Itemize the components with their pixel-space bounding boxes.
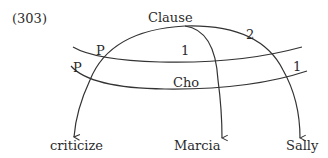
arc-clause-to-sally — [185, 26, 300, 138]
arc-label-1-upper: 1 — [181, 44, 189, 57]
arc-label-2: 2 — [246, 28, 254, 41]
node-clause: Clause — [148, 11, 193, 24]
node-sally: Sally — [286, 139, 318, 152]
node-marcia: Marcia — [174, 139, 220, 152]
arc-label-p-lower: P — [73, 61, 82, 74]
node-cho: Cho — [173, 76, 199, 89]
arc-clause-to-criticize — [74, 26, 185, 137]
node-criticize: criticize — [50, 139, 103, 152]
arc-label-1-lower: 1 — [293, 60, 301, 73]
arc-label-p-upper: P — [96, 44, 105, 57]
example-number: (303) — [12, 12, 47, 25]
